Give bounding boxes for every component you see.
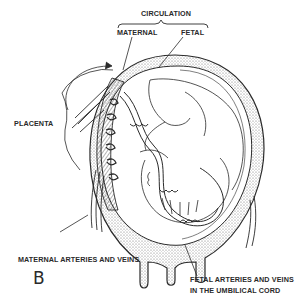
fetal-vessels-label-line2: IN THE UMBILICAL CORD: [190, 287, 280, 294]
maternal-vessels-label: MATERNAL ARTERIES AND VEINS: [18, 256, 139, 263]
fetal-vessels-label-line1: FETAL ARTERIES AND VEINS: [190, 276, 294, 283]
placenta-circulation-diagram: CIRCULATION MATERNAL FETAL PLACENTA MATE…: [0, 0, 300, 305]
maternal-label: MATERNAL: [117, 29, 158, 36]
placenta-label: PLACENTA: [14, 120, 53, 127]
fetal-label: FETAL: [181, 29, 204, 36]
circulation-label: CIRCULATION: [141, 10, 191, 17]
panel-letter: B: [33, 270, 45, 287]
circulation-bracket: [118, 20, 208, 28]
